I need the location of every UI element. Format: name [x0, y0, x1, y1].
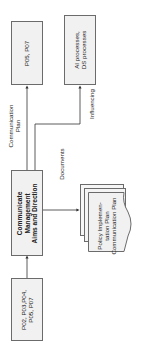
edge-label-documents: Documents — [58, 146, 66, 182]
node-p05-p07-label: P05, P07 — [24, 40, 31, 65]
node-inputs: P02, P03,P04, P05, P07 — [11, 278, 43, 341]
node-ai-ds-label: AI processes, DS processes — [73, 31, 87, 70]
node-communicate-label: Communicate Management Aims and Directio… — [16, 183, 39, 243]
node-p05-p07: P05, P07 — [11, 21, 43, 85]
edge-label-communication-plan: Communication Plan — [7, 101, 23, 151]
node-communicate-management: Communicate Management Aims and Directio… — [11, 170, 43, 256]
doc-stack-label: Policy Implemen- tation Plan Communicati… — [96, 196, 118, 256]
node-inputs-label: P02, P03,P04, P05, P07 — [20, 290, 34, 330]
edge-label-influencing: Influencing — [88, 84, 96, 124]
node-ai-ds-processes: AI processes, DS processes — [64, 15, 96, 85]
